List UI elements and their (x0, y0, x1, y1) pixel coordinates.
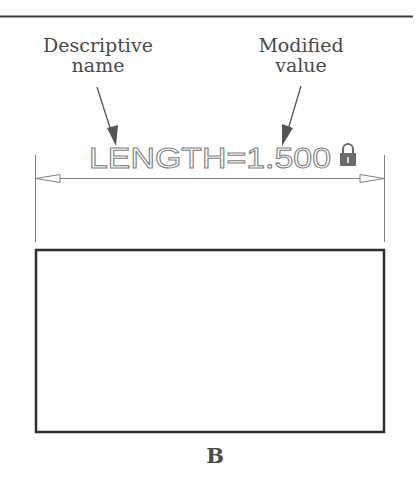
callout-descriptive-name-line1: Descriptive (43, 34, 153, 56)
dimension-label: LENGTH=1.500 (89, 142, 331, 174)
leader-arrow-value (282, 86, 301, 146)
drawn-rectangle (36, 250, 384, 432)
dimension-arrow-left (36, 175, 60, 183)
leader-arrow-name (97, 87, 118, 146)
callout-modified-value-line1: Modified (258, 34, 343, 56)
padlock-icon (340, 144, 356, 166)
callout-modified-value-line2: value (274, 54, 327, 76)
dimension-arrow-right (360, 175, 384, 183)
callout-descriptive-name-line2: name (72, 54, 125, 76)
figure-caption: B (206, 443, 224, 468)
dimension-diagram: Descriptive name Modified value LENGTH=1… (0, 0, 420, 490)
